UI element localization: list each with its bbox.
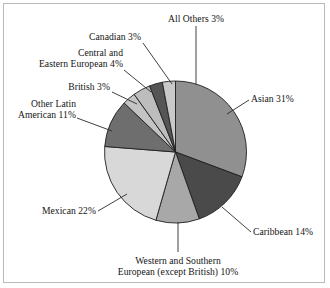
leader-line-mexican bbox=[98, 194, 127, 211]
label-all-others-line1: All Others 3% bbox=[118, 13, 274, 24]
label-mexican-line1: Mexican 22% bbox=[0, 205, 96, 216]
label-canadian-line1: Canadian 3% bbox=[0, 31, 141, 42]
label-central-eastern-european-line1: Central and bbox=[0, 47, 123, 58]
label-asian: Asian 31% bbox=[251, 93, 327, 104]
pie-slices: Asian 31%Caribbean 14%Western and Southe… bbox=[104, 81, 246, 223]
label-canadian: Canadian 3% bbox=[0, 31, 141, 42]
label-other-latin-american-line2: American 11% bbox=[0, 109, 76, 120]
pie-chart-figure: Asian 31%Caribbean 14%Western and Southe… bbox=[0, 0, 330, 288]
label-caribbean-line1: Caribbean 14% bbox=[253, 226, 329, 237]
label-asian-line1: Asian 31% bbox=[251, 93, 327, 104]
label-british: British 3% bbox=[0, 81, 110, 92]
leader-line-canadian bbox=[143, 43, 172, 84]
label-all-others: All Others 3% bbox=[118, 13, 274, 24]
leader-line-central-eastern-european bbox=[124, 70, 151, 92]
label-central-eastern-european: Central and Eastern European 4% bbox=[0, 47, 123, 70]
label-western-southern-european-line2: European (except British) 10% bbox=[88, 266, 268, 277]
label-british-line1: British 3% bbox=[0, 81, 110, 92]
leader-line-caribbean bbox=[222, 207, 251, 232]
label-other-latin-american: Other Latin American 11% bbox=[0, 98, 76, 121]
label-western-southern-european: Western and Southern European (except Br… bbox=[88, 255, 268, 278]
label-other-latin-american-line1: Other Latin bbox=[0, 98, 76, 109]
label-mexican: Mexican 22% bbox=[0, 205, 96, 216]
pie-chart-canvas: Asian 31%Caribbean 14%Western and Southe… bbox=[0, 0, 330, 288]
label-western-southern-european-line1: Western and Southern bbox=[88, 255, 268, 266]
label-caribbean: Caribbean 14% bbox=[253, 226, 329, 237]
label-central-eastern-european-line2: Eastern European 4% bbox=[0, 58, 123, 69]
leader-line-other-latin-american bbox=[77, 118, 112, 131]
